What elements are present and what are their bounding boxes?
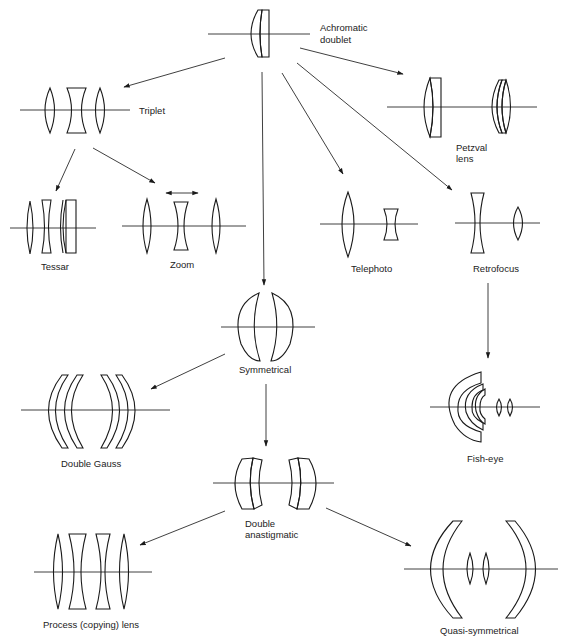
node-petzval: Petzval lens: [387, 78, 537, 164]
lens-element: [101, 375, 120, 448]
node-retrofocus: Retrofocus: [455, 193, 540, 274]
lens-element: [483, 553, 489, 584]
edge-achromatic-doublet-to-symmetrical: [262, 72, 264, 285]
node-symmetrical: Symmetrical: [221, 293, 315, 375]
node-triplet: Triplet: [20, 88, 165, 133]
label-achromatic-doublet-2: doublet: [320, 34, 352, 45]
edges: [56, 48, 488, 546]
edge-double-anastigmatic-to-process-lens: [140, 511, 225, 545]
node-quasi-symmetrical: Quasi-symmetrical: [404, 521, 558, 636]
label-petzval-2: lens: [456, 153, 474, 164]
label-double-anastigmatic-1: Double: [245, 518, 275, 529]
label-quasi-symmetrical: Quasi-symmetrical: [440, 625, 519, 636]
lens-element: [67, 88, 86, 133]
lens-element: [514, 207, 523, 240]
lens-element: [120, 534, 129, 609]
lens-family-diagram: Achromatic doublet Triplet Petzval lens …: [0, 0, 571, 643]
lens-element: [49, 375, 69, 448]
node-telephoto: Telephoto: [320, 192, 418, 274]
label-tessar: Tessar: [41, 261, 69, 272]
label-double-gauss: Double Gauss: [61, 458, 121, 469]
lens-element: [96, 534, 110, 609]
node-process-lens: Process (copying) lens: [34, 534, 152, 630]
lens-element: [96, 88, 105, 133]
label-symmetrical: Symmetrical: [239, 364, 291, 375]
label-zoom: Zoom: [170, 259, 194, 270]
label-achromatic-doublet-1: Achromatic: [320, 22, 368, 33]
node-zoom: Zoom: [122, 193, 246, 270]
lens-element: [116, 375, 135, 448]
edge-triplet-to-zoom: [93, 148, 155, 183]
label-double-anastigmatic-2: anastigmatic: [245, 529, 299, 540]
lens-element: [342, 192, 354, 257]
label-telephoto: Telephoto: [351, 263, 392, 274]
edge-achromatic-doublet-to-telephoto: [282, 73, 343, 174]
node-double-gauss: Double Gauss: [21, 375, 170, 469]
lens-element: [506, 521, 536, 618]
lens-element: [42, 200, 51, 253]
node-achromatic-doublet: Achromatic doublet: [208, 10, 368, 57]
edge-triplet-to-tessar: [56, 149, 75, 191]
lens-element: [260, 10, 269, 57]
lens-element: [63, 200, 76, 253]
label-fish-eye: Fish-eye: [467, 453, 503, 464]
node-double-anastigmatic: Double anastigmatic: [213, 458, 334, 540]
lens-element: [54, 534, 63, 609]
lens-element: [467, 553, 473, 584]
edge-achromatic-doublet-to-petzval: [300, 48, 403, 74]
node-fish-eye: Fish-eye: [430, 372, 540, 464]
label-triplet: Triplet: [139, 105, 165, 116]
lens-element: [27, 201, 33, 254]
lens-element: [297, 458, 316, 509]
lens-element: [45, 88, 55, 133]
lens-element: [65, 375, 84, 448]
lens-element: [431, 521, 463, 618]
label-process-lens: Process (copying) lens: [43, 619, 139, 630]
lens-element: [69, 534, 86, 609]
lens-element: [508, 399, 513, 416]
node-tessar: Tessar: [10, 200, 96, 272]
lens-element: [497, 399, 502, 416]
edge-symmetrical-to-double-gauss: [151, 354, 225, 389]
lens-element: [384, 209, 398, 240]
lens-element: [250, 458, 262, 509]
lens-element: [502, 80, 511, 133]
label-petzval-1: Petzval: [456, 142, 487, 153]
edge-achromatic-doublet-to-triplet: [124, 58, 225, 87]
lens-element: [430, 78, 441, 137]
edge-double-anastigmatic-to-quasi-symmetrical: [326, 508, 411, 546]
label-retrofocus: Retrofocus: [473, 263, 519, 274]
